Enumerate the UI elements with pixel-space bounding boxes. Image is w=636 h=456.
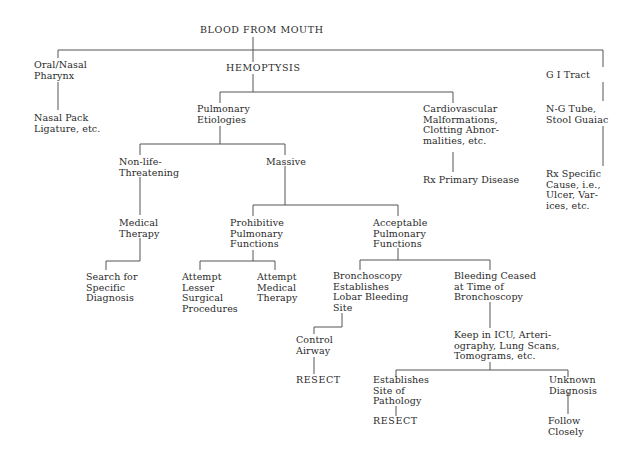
node-gi-tract: G I Tract [546,70,590,81]
node-attempt-medical-therapy: Attempt Medical Therapy [257,272,297,304]
node-rx-primary-disease: Rx Primary Disease [423,175,519,186]
node-hemoptysis: HEMOPTYSIS [226,63,301,74]
node-non-life-threatening: Non-life- Threatening [119,157,179,178]
node-attempt-lesser-surgical: Attempt Lesser Surgical Procedures [182,272,238,314]
flowchart-blood-from-mouth: BLOOD FROM MOUTH Oral/Nasal Pharynx Nasa… [0,0,636,456]
node-nasal-pack: Nasal Pack Ligature, etc. [34,113,100,134]
node-follow-closely: Follow Closely [548,416,584,437]
node-resect-airway: RESECT [296,375,341,386]
node-prohibitive-pulmonary: Prohibitive Pulmonary Functions [230,218,284,250]
node-control-airway: Control Airway [296,335,333,356]
node-massive: Massive [266,157,306,168]
node-keep-in-icu: Keep in ICU, Arteri- ography, Lung Scans… [454,330,560,362]
node-resect-pathology: RESECT [373,416,418,427]
node-medical-therapy: Medical Therapy [119,218,159,239]
node-cardiovascular: Cardiovascular Malformations, Clotting A… [423,104,499,146]
node-blood-from-mouth: BLOOD FROM MOUTH [200,25,324,36]
node-establishes-site: Establishes Site of Pathology [373,375,429,407]
node-acceptable-pulmonary: Acceptable Pulmonary Functions [373,218,427,250]
node-ng-tube: N-G Tube, Stool Guaiac [546,104,608,125]
node-unknown-diagnosis: Unknown Diagnosis [549,375,597,396]
node-pulmonary-etiologies: Pulmonary Etiologies [197,104,250,125]
connector-lines [0,0,636,456]
node-rx-specific-cause: Rx Specific Cause, i.e., Ulcer, Var- ice… [546,169,601,211]
node-oral-nasal-pharynx: Oral/Nasal Pharynx [34,60,87,81]
node-search-specific-diagnosis: Search for Specific Diagnosis [86,272,138,304]
node-bronchoscopy-establishes: Bronchoscopy Establishes Lobar Bleeding … [333,271,408,313]
node-bleeding-ceased: Bleeding Ceased at Time of Bronchoscopy [454,271,536,303]
